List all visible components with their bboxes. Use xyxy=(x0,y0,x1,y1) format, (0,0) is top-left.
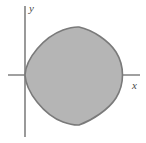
x-axis-label: x xyxy=(132,80,137,91)
plot-canvas xyxy=(0,0,146,143)
y-axis-label: y xyxy=(29,3,34,14)
figure-root: y x xyxy=(0,0,146,143)
shaded-region xyxy=(25,27,123,125)
